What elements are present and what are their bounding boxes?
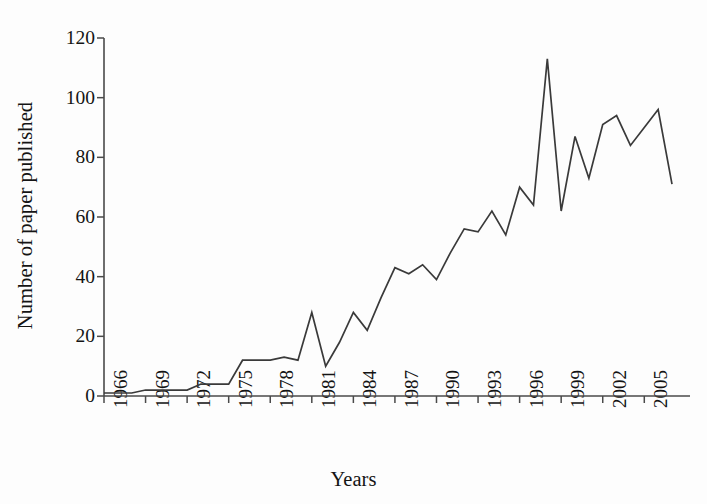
y-axis-ticks [97,38,104,396]
line-chart-plot [0,0,707,504]
x-axis-ticks [104,396,644,403]
axes-group [97,38,690,403]
chart-figure: Number of paper published Years 02040608… [0,0,707,504]
data-series-line [104,59,672,393]
